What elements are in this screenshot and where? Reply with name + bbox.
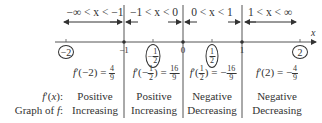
- behavior-1: Increasing: [72, 104, 118, 116]
- derivative-value-2: f′(−12) = 169: [133, 65, 180, 82]
- tick-neg1: −1: [119, 45, 129, 55]
- row-label-graph: Graph of f:: [15, 104, 63, 116]
- interval-label-2: −1 < x < 0: [130, 6, 178, 18]
- test-point-neg2: −2: [58, 45, 74, 59]
- derivative-value-3: f′(12) = −169: [190, 65, 237, 82]
- behavior-3: Decreasing: [187, 104, 236, 116]
- interval-label-4: 1 < x < ∞: [248, 6, 292, 18]
- sign-4: Negative: [257, 90, 297, 102]
- sign-3: Negative: [192, 90, 232, 102]
- sign-1: Positive: [77, 90, 112, 102]
- sign-2: Positive: [136, 90, 171, 102]
- tick-0: 0: [181, 45, 186, 55]
- interval-label-1: −∞ < x < −1: [66, 6, 123, 18]
- axis-variable-label: x: [311, 27, 315, 38]
- behavior-4: Decreasing: [252, 104, 301, 116]
- test-point-2: 2: [292, 45, 308, 59]
- row-label-derivative: f′(x):: [42, 90, 63, 102]
- behavior-2: Increasing: [131, 104, 177, 116]
- derivative-value-4: f′(2) = −49: [256, 65, 298, 82]
- interval-label-3: 0 < x < 1: [191, 6, 233, 18]
- tick-1: 1: [240, 45, 245, 55]
- derivative-value-1: f′(−2) = 49: [73, 65, 115, 82]
